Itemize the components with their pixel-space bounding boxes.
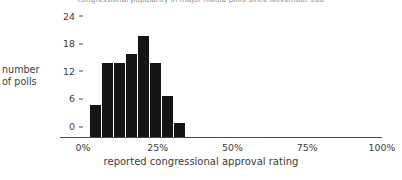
- histogram-bar: [150, 63, 161, 137]
- plot-area: 06121824: [83, 21, 382, 137]
- y-axis-tick-label: 12: [63, 65, 75, 76]
- x-axis-left-extension: [60, 137, 83, 138]
- y-axis-tick-mark: [79, 43, 83, 44]
- y-axis-label: number of polls: [2, 64, 50, 87]
- histogram-bar: [174, 123, 185, 137]
- histogram-bar: [90, 105, 101, 137]
- x-axis-tick-label: 75%: [297, 142, 318, 153]
- y-axis-tick: 6: [69, 93, 83, 104]
- y-axis-tick: 12: [63, 65, 83, 76]
- y-axis-tick-mark: [79, 16, 83, 17]
- x-axis-line: [83, 137, 382, 138]
- x-axis-label: reported congressional approval rating: [0, 156, 402, 167]
- histogram-bar: [126, 54, 137, 137]
- y-axis-tick-mark: [79, 71, 83, 72]
- histogram-bar: [102, 63, 113, 137]
- y-axis-tick: 24: [63, 10, 83, 21]
- y-axis-tick: 0: [69, 121, 83, 132]
- y-axis-tick-mark: [79, 98, 83, 99]
- histogram-bar: [162, 96, 173, 137]
- x-axis-tick-label: 100%: [369, 142, 396, 153]
- histogram-bar: [114, 63, 125, 137]
- y-axis-tick-label: 18: [63, 38, 75, 49]
- y-axis-label-line-1: number: [2, 64, 50, 76]
- y-axis-tick-label: 6: [69, 93, 75, 104]
- x-axis-tick-label: 25%: [147, 142, 168, 153]
- y-axis-label-line-2: of polls: [2, 76, 50, 88]
- y-axis-tick-label: 0: [69, 121, 75, 132]
- chart-title: congressional popularity in major media …: [0, 0, 402, 4]
- x-axis-tick-label: 50%: [222, 142, 243, 153]
- y-axis-tick-mark: [79, 126, 83, 127]
- histogram-chart: congressional popularity in major media …: [0, 0, 402, 180]
- x-axis-tick-label: 0%: [76, 142, 91, 153]
- y-axis-tick: 18: [63, 38, 83, 49]
- histogram-bar: [138, 36, 149, 137]
- y-axis-tick-label: 24: [63, 10, 75, 21]
